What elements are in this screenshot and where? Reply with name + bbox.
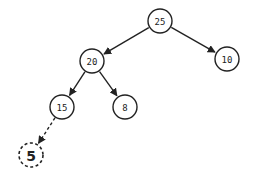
node-label: 15 bbox=[57, 103, 68, 113]
edge-arrow-20-to-8 bbox=[100, 72, 117, 96]
node-label: 5 bbox=[26, 148, 36, 164]
tree-node-25: 25 bbox=[148, 9, 172, 33]
node-label: 10 bbox=[222, 55, 233, 65]
node-label: 25 bbox=[155, 17, 166, 27]
node-label: 8 bbox=[122, 103, 127, 113]
tree-node-8: 8 bbox=[113, 95, 137, 119]
edge-arrow-20-to-15 bbox=[70, 72, 85, 95]
edge-arrow-15-to-5 bbox=[39, 118, 55, 143]
tree-node-15: 15 bbox=[50, 95, 74, 119]
edge-arrow-25-to-10 bbox=[171, 27, 215, 52]
tree-node-10: 10 bbox=[215, 47, 239, 71]
tree-node-5: 5 bbox=[19, 143, 43, 167]
tree-diagram: 2520101585 bbox=[0, 0, 253, 181]
tree-node-20: 20 bbox=[80, 49, 104, 73]
node-label: 20 bbox=[87, 57, 98, 67]
edge-arrow-25-to-20 bbox=[104, 28, 149, 54]
